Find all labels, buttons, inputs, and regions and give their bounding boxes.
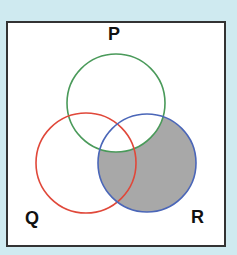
set-r-label: R [191,207,204,228]
set-q-label: Q [25,208,39,229]
set-p-label: P [108,24,120,45]
